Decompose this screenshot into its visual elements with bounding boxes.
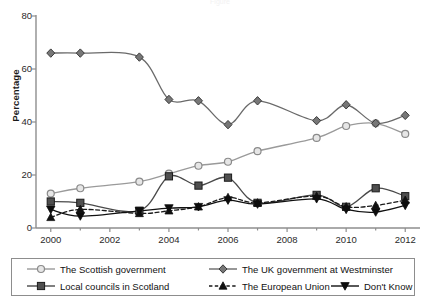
series-line-the-uk-government-at-westminster <box>51 52 405 124</box>
filled-diamond-icon <box>219 265 227 273</box>
legend-item-label: The European Union <box>242 281 330 292</box>
legend-item-the-scottish-government[interactable]: The Scottish government <box>26 263 216 275</box>
legend-item-the-european-union[interactable]: The European Union <box>208 280 328 292</box>
data-point <box>254 97 262 105</box>
filled-square-marker-icon <box>26 280 56 292</box>
data-point <box>47 49 55 57</box>
data-point <box>194 97 202 105</box>
data-point <box>224 120 232 128</box>
legend-item-don-t-know[interactable]: Don't Know <box>330 280 415 292</box>
data-point <box>135 53 143 61</box>
data-point <box>343 122 350 129</box>
legend-item-label: The Scottish government <box>60 264 166 275</box>
legend-item-label: The UK government at Westminster <box>242 264 393 275</box>
data-point <box>254 148 261 155</box>
data-point <box>77 185 84 192</box>
percentage-line-chart: Figure Percentage 020406080 200020022004… <box>0 0 428 303</box>
data-point <box>195 162 202 169</box>
data-point <box>342 101 350 109</box>
data-point <box>313 134 320 141</box>
filled-triangle-up-icon <box>219 282 227 289</box>
data-point <box>402 130 409 137</box>
data-point <box>136 178 143 185</box>
data-point <box>76 49 84 57</box>
data-point <box>47 198 54 205</box>
series-markers <box>47 49 410 221</box>
data-point <box>372 185 379 192</box>
filled-triangle-up-marker-icon <box>208 280 238 292</box>
data-point <box>225 158 232 165</box>
filled-square-icon <box>37 282 44 289</box>
legend-item-local-councils-in-scotland[interactable]: Local councils in Scotland <box>26 280 216 292</box>
data-point <box>47 190 54 197</box>
filled-triangle-down-marker-icon <box>330 280 360 292</box>
data-point <box>401 111 409 119</box>
data-point <box>224 174 231 181</box>
filled-diamond-marker-icon <box>208 263 238 275</box>
legend-item-label: Don't Know <box>364 281 412 292</box>
legend-item-label: Local councils in Scotland <box>60 281 169 292</box>
data-point <box>195 182 202 189</box>
data-point <box>313 116 321 124</box>
open-circle-marker-icon <box>26 263 56 275</box>
data-point <box>165 173 172 180</box>
open-circle-icon <box>38 266 45 273</box>
chart-legend: The Scottish governmentLocal councils in… <box>11 258 415 296</box>
legend-item-the-uk-government-at-westminster[interactable]: The UK government at Westminster <box>208 263 408 275</box>
